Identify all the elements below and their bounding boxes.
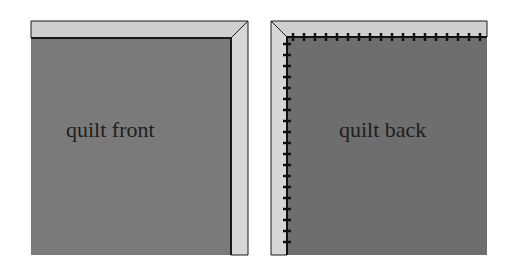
quilt-back-body <box>287 37 487 255</box>
quilt-back-label: quilt back <box>339 117 426 142</box>
quilt-front-body <box>31 38 231 255</box>
quilt-front-illustration: quilt front <box>0 0 258 270</box>
binding-right-strip <box>231 21 248 255</box>
binding-top-strip <box>31 21 248 38</box>
quilt-front-label: quilt front <box>66 117 155 142</box>
quilt-back-illustration: quilt back <box>258 0 517 270</box>
quilt-back-panel: quilt back <box>258 0 517 270</box>
quilt-front-panel: quilt front <box>0 0 258 270</box>
